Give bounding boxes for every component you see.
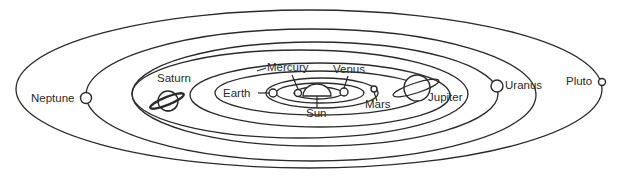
venus-planet-icon	[340, 88, 348, 96]
uranus-label: Uranus	[505, 80, 542, 92]
mars-label: Mars	[365, 99, 391, 111]
earth-planet-icon	[269, 89, 277, 97]
mars-planet-icon	[371, 86, 377, 92]
pluto-planet-icon	[599, 79, 606, 86]
neptune-label: Neptune	[31, 93, 74, 105]
sun-icon	[303, 84, 331, 96]
solar-system-diagram: Neptune Saturn Mercury Venus Earth Sun M…	[0, 0, 630, 178]
saturn-planet-icon	[149, 91, 185, 112]
sun-label: Sun	[306, 108, 326, 120]
venus-leader	[344, 76, 348, 88]
mercury-label: Mercury	[267, 62, 309, 74]
jupiter-label: Jupiter	[428, 92, 463, 104]
mercury-leader	[292, 75, 298, 89]
pluto-label: Pluto	[566, 76, 592, 88]
neptune-planet-icon	[81, 93, 92, 104]
earth-label: Earth	[223, 88, 251, 100]
venus-label: Venus	[333, 64, 365, 76]
saturn-label: Saturn	[157, 73, 191, 85]
mercury-planet-icon	[295, 90, 302, 97]
mercury-label-line	[257, 68, 266, 71]
uranus-planet-icon	[491, 80, 503, 92]
